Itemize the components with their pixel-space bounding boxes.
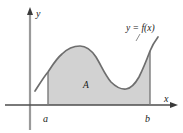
shaded-area-region: [48, 46, 150, 105]
function-label: y = f(x): [125, 23, 155, 34]
y-axis-arrowhead: [27, 7, 33, 15]
y-axis-label: y: [35, 8, 41, 19]
function-label-leader-line: [136, 34, 140, 41]
tick-label-a: a: [43, 113, 48, 124]
tick-label-b: b: [145, 113, 150, 124]
x-axis-arrowhead: [170, 102, 178, 108]
figure-container: y x a b A y = f(x): [0, 0, 183, 133]
area-region-label: A: [82, 80, 89, 90]
area-under-curve-figure: y x a b A y = f(x): [0, 0, 183, 133]
x-axis-label: x: [163, 93, 169, 104]
